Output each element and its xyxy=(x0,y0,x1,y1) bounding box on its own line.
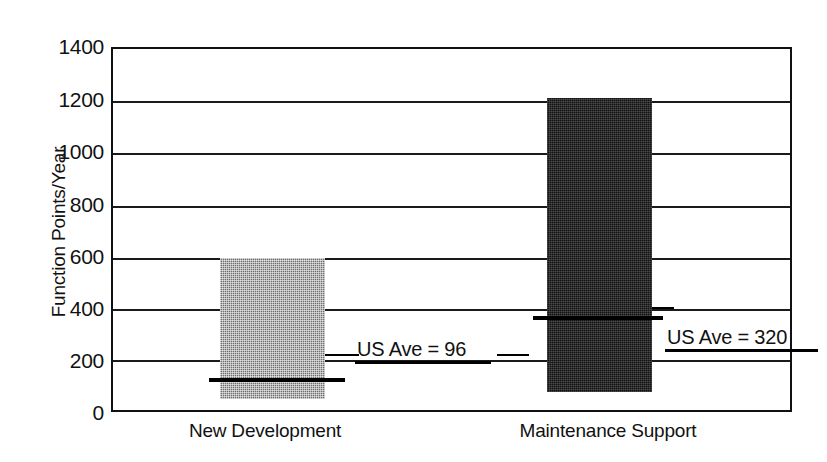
y-tick-0: 0 xyxy=(30,402,104,423)
gridline-400 xyxy=(113,309,790,311)
leader-line-new-development-right xyxy=(497,354,529,356)
y-tick-1000: 1000 xyxy=(30,141,104,162)
y-axis-tick-labels: 1400 1200 1000 800 600 400 200 0 xyxy=(30,0,104,462)
avg-marker-new-development xyxy=(209,378,345,382)
leader-line-maintenance-support xyxy=(652,307,674,309)
leader-line-new-development xyxy=(325,354,359,356)
y-tick-400: 400 xyxy=(30,298,104,319)
annotation-underline-new-development xyxy=(355,361,491,364)
avg-marker-maintenance-support xyxy=(533,316,663,320)
y-tick-1400: 1400 xyxy=(30,36,104,57)
bar-maintenance-support xyxy=(547,98,652,392)
x-label-new-development: New Development xyxy=(185,421,345,440)
gridline-800 xyxy=(113,206,790,208)
x-label-maintenance-support: Maintenance Support xyxy=(512,421,704,440)
gridline-1200 xyxy=(113,101,790,103)
gridline-600 xyxy=(113,258,790,260)
annotation-underline-maintenance-support xyxy=(665,349,818,352)
y-tick-1200: 1200 xyxy=(30,89,104,110)
bar-chart: Function Points/Year 1400 1200 1000 800 … xyxy=(0,0,827,462)
annotation-us-ave-new-development: US Ave = 96 xyxy=(357,339,466,359)
y-tick-200: 200 xyxy=(30,350,104,371)
annotation-us-ave-maintenance-support: US Ave = 320 xyxy=(667,327,787,347)
gridline-1000 xyxy=(113,153,790,155)
y-tick-800: 800 xyxy=(30,194,104,215)
y-tick-600: 600 xyxy=(30,246,104,267)
